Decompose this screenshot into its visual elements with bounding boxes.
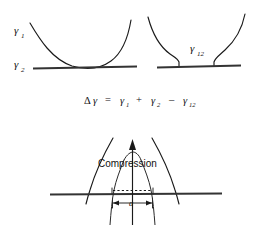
gamma1-curve: [30, 20, 131, 68]
equation-delta: Δ: [84, 95, 91, 106]
equation-group: Δ γ = γ 1 + γ 2 – γ 12: [84, 94, 196, 108]
equation-plus: +: [136, 94, 142, 105]
gamma1-label-subscript: 1: [21, 32, 25, 40]
gamma12-label-subscript: 12: [197, 50, 205, 58]
compression-label: Compression: [98, 158, 157, 169]
gamma1-label: γ: [14, 24, 19, 36]
equation-term2: γ: [151, 95, 156, 106]
gamma2-label: γ: [14, 58, 19, 70]
contact-plane-line: [50, 194, 222, 195]
equation-term1-subscript: 1: [126, 101, 129, 108]
equation-delta-gamma: γ: [93, 95, 98, 106]
equation-term1: γ: [120, 95, 125, 106]
dimension-left-arrowhead: [113, 201, 119, 206]
equation-term3: γ: [183, 95, 188, 106]
gamma12-label: γ: [190, 42, 195, 54]
gamma2-label-subscript: 2: [21, 66, 25, 74]
gamma2-baseline: [33, 67, 137, 69]
right-panel-baseline: [157, 66, 241, 68]
right-panel-right-curve: [214, 14, 245, 66]
equation-minus: –: [168, 94, 175, 105]
right-panel-left-curve: [148, 17, 179, 66]
right-panel-group: γ 12: [148, 14, 245, 68]
bottom-panel-group: Compression a: [50, 138, 222, 225]
compression-arrow-head: [129, 139, 136, 150]
dimension-right-arrowhead: [146, 201, 152, 206]
left-panel-group: γ 1 γ 2: [14, 20, 137, 74]
equation-term3-subscript: 12: [189, 101, 196, 108]
equation-equals: =: [105, 94, 111, 105]
dimension-a-label: a: [129, 198, 133, 208]
equation-term2-subscript: 2: [157, 101, 161, 108]
scientific-figure: γ 1 γ 2 γ 12 Δ γ = γ 1 + γ: [0, 0, 264, 225]
figure-canvas: γ 1 γ 2 γ 12 Δ γ = γ 1 + γ: [0, 0, 264, 225]
